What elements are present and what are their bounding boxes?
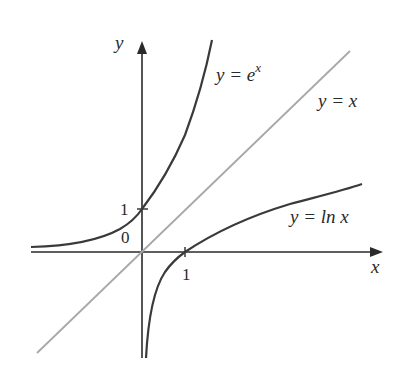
y-tick-label: 1 [120,200,129,219]
origin-label: 0 [121,228,130,247]
x-tick-label: 1 [182,265,191,284]
curve-identity [37,51,350,353]
y-axis-arrow-icon [137,41,147,54]
identity-label: y = x [316,90,358,111]
exp-label: y = ex [214,60,261,85]
y-axis [137,41,147,358]
y-axis-label: y [113,32,124,53]
graph-canvas: y x 0 1 1 y = ex y = x y = ln x [0,0,413,370]
x-axis-label: x [370,256,380,277]
ln-label: y = ln x [288,206,349,227]
x-axis [31,247,383,257]
